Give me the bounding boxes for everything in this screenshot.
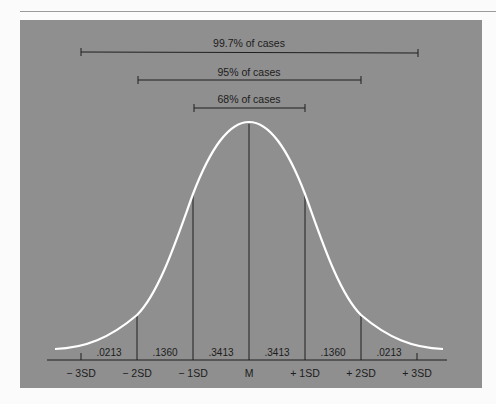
segment-label-2: .1360: [152, 347, 177, 358]
range-label-68: 68% of cases: [217, 93, 280, 105]
x-tick-minus2sd: − 2SD: [122, 367, 152, 379]
range-label-99-7: 99.7% of cases: [213, 37, 285, 49]
x-tick-plus1sd: + 1SD: [290, 367, 320, 379]
segment-label-4: .3413: [264, 347, 289, 358]
sd-lines: [81, 124, 417, 360]
segment-label-6: .0213: [376, 347, 401, 358]
x-tick-plus3sd: + 3SD: [402, 367, 432, 379]
range-bar-68: [194, 104, 305, 112]
segment-label-5: .1360: [320, 347, 345, 358]
range-bar-99-7: [81, 48, 418, 57]
x-tick-plus2sd: + 2SD: [346, 367, 376, 379]
normal-curve-chart: 99.7% of cases 95% of cases 68% of cases…: [0, 0, 496, 404]
x-tick-minus1sd: − 1SD: [178, 367, 208, 379]
x-tick-minus3sd: − 3SD: [66, 367, 96, 379]
range-label-95: 95% of cases: [217, 66, 280, 78]
segment-label-1: .0213: [96, 347, 121, 358]
segment-label-3: .3413: [208, 347, 233, 358]
x-tick-mean: M: [245, 367, 254, 379]
